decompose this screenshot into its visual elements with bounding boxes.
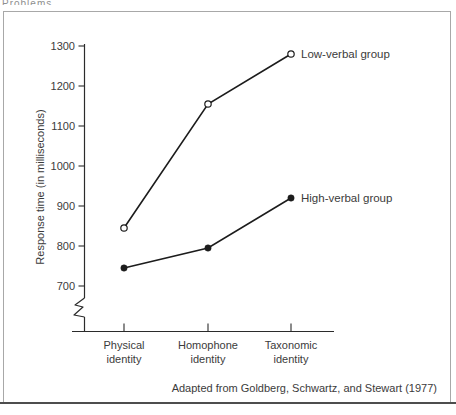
chart-generated-content: 1300120011001000900800700Physicalidentit… bbox=[51, 40, 318, 365]
legend-high-verbal-group: High-verbal group bbox=[301, 192, 392, 204]
open-circle-marker bbox=[288, 51, 294, 57]
y-tick-label: 700 bbox=[57, 280, 75, 292]
filled-circle-marker bbox=[121, 265, 127, 271]
line-chart: Response time (in milliseconds) Low-verb… bbox=[0, 0, 456, 415]
open-circle-marker bbox=[121, 225, 127, 231]
category-label: Physicalidentity bbox=[104, 339, 145, 365]
category-label: Homophoneidentity bbox=[178, 339, 238, 365]
series-line-high-verbal bbox=[124, 198, 291, 268]
y-tick-label: 1000 bbox=[51, 160, 75, 172]
y-axis-break-icon bbox=[74, 298, 85, 317]
legend-low-verbal-group: Low-verbal group bbox=[301, 48, 390, 60]
y-axis-title: Response time (in milliseconds) bbox=[34, 109, 46, 264]
series-line-low-verbal bbox=[124, 54, 291, 228]
open-circle-marker bbox=[205, 101, 211, 107]
page: Problems Response time (in milliseconds)… bbox=[0, 0, 456, 415]
filled-circle-marker bbox=[288, 195, 294, 201]
y-tick-label: 1100 bbox=[51, 120, 75, 132]
y-tick-label: 1200 bbox=[51, 80, 75, 92]
y-tick-label: 800 bbox=[57, 240, 75, 252]
y-tick-label: 1300 bbox=[51, 40, 75, 52]
y-tick-label: 900 bbox=[57, 200, 75, 212]
source-caption: Adapted from Goldberg, Schwartz, and Ste… bbox=[172, 382, 437, 394]
filled-circle-marker bbox=[205, 245, 211, 251]
category-label: Taxonomicidentity bbox=[265, 339, 318, 365]
